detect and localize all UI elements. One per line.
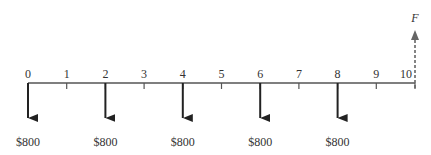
period-label: 9 [373, 67, 379, 81]
period-label: 5 [219, 67, 225, 81]
outflow-amount: $800 [171, 135, 195, 149]
period-label: 6 [257, 67, 263, 81]
future-value-label: F [410, 11, 419, 25]
outflow-amount: $800 [326, 135, 350, 149]
period-label: 8 [335, 67, 341, 81]
period-label: 4 [180, 67, 186, 81]
outflow-amount: $800 [248, 135, 272, 149]
period-label: 3 [141, 67, 147, 81]
period-label: 0 [25, 67, 31, 81]
outflow-amount: $800 [93, 135, 117, 149]
outflow-amount: $800 [16, 135, 40, 149]
cash-flow-diagram: 012345678910 $800$800$800$800$800 F [0, 0, 431, 155]
period-label: 2 [102, 67, 108, 81]
period-label: 10 [400, 67, 412, 81]
period-label: 1 [64, 67, 70, 81]
period-label: 7 [296, 67, 302, 81]
